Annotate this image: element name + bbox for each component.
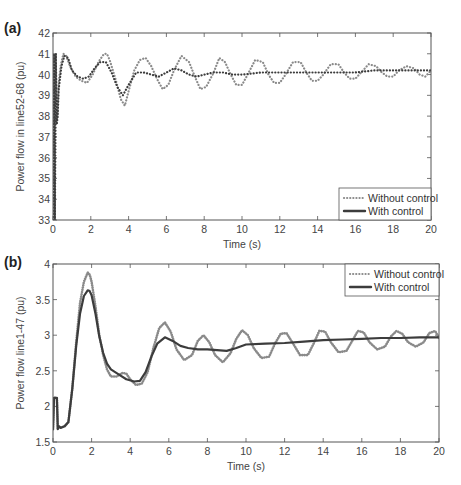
x-tick-label: 4 [127,445,133,457]
x-tick-label: 12 [279,445,291,457]
panel-label-b: (b) [4,254,22,270]
figure: (a) 024681012141618203334353637383940414… [0,0,461,485]
x-tick-label: 14 [317,445,329,457]
x-tick-label: 20 [433,445,445,457]
x-tick-label: 2 [88,223,94,235]
x-tick-label: 10 [240,445,252,457]
x-tick-label: 8 [201,223,207,235]
y-tick-label: 35 [38,172,50,184]
x-tick-label: 6 [166,445,172,457]
y-tick-label: 37 [38,131,50,143]
x-tick-label: 16 [356,445,368,457]
x-tick-label: 12 [274,223,286,235]
x-tick-label: 14 [312,223,324,235]
legend-label-with-control: With control [374,281,429,293]
x-tick-label: 16 [350,223,362,235]
y-axis-label-b: Power flow line1-47 (pu) [14,296,26,409]
x-tick-label: 20 [425,223,437,235]
chart-panel-a: (a) 024681012141618203334353637383940414… [4,20,438,250]
x-tick-label: 6 [163,223,169,235]
legend-label-without-control: Without control [374,268,444,280]
x-tick-label: 10 [236,223,248,235]
y-tick-label: 33 [38,214,50,226]
y-tick-label: 3.5 [35,294,50,306]
y-tick-label: 34 [38,193,50,205]
x-tick-label: 4 [126,223,132,235]
y-tick-label: 40 [38,69,50,81]
y-tick-label: 42 [38,27,50,39]
y-tick-label: 38 [38,110,50,122]
chart-panel-b: (b) 024681012141618201.522.533.54 Time (… [4,254,445,472]
y-tick-label: 2.5 [35,365,50,377]
y-tick-label: 39 [38,89,50,101]
legend-label-with-control: With control [368,205,423,217]
y-tick-label: 1.5 [35,436,50,448]
x-tick-label: 8 [204,445,210,457]
y-tick-label: 4 [44,258,50,270]
y-tick-label: 2 [44,400,50,412]
panel-label-a: (a) [4,20,21,36]
y-axis-label-a: Power flow in line52-68 (pu) [14,61,26,191]
y-tick-label: 36 [38,152,50,164]
x-tick-label: 2 [89,445,95,457]
y-tick-label: 3 [44,329,50,341]
x-tick-label: 0 [50,223,56,235]
x-axis-label-a: Time (s) [223,238,261,250]
legend-label-without-control: Without control [368,192,438,204]
series-with-control [53,290,439,429]
x-axis-label-b: Time (s) [227,460,265,472]
legend-a: Without control With control [339,188,438,220]
y-tick-label: 41 [38,48,50,60]
x-tick-label: 18 [395,445,407,457]
x-tick-label: 0 [50,445,56,457]
legend-b: Without control With control [345,264,444,296]
x-tick-label: 18 [387,223,399,235]
